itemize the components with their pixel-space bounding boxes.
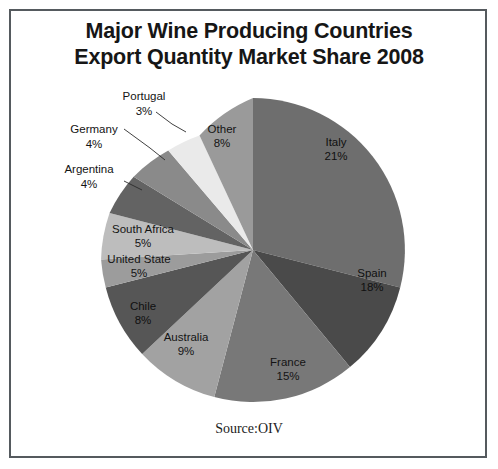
slice-label-australia-pct: 9% xyxy=(178,345,195,357)
slice-label-united-state-pct: 5% xyxy=(131,267,148,279)
slice-label-france-pct: 15% xyxy=(276,370,299,382)
pie-chart-figure: Major Wine Producing Countries Export Qu… xyxy=(0,0,498,469)
slice-label-chile-name: Chile xyxy=(130,300,156,312)
leader-line-germany xyxy=(124,129,165,160)
slice-label-australia-name: Australia xyxy=(164,331,209,343)
slice-label-spain-pct: 18% xyxy=(360,281,383,293)
slice-label-portugal-pct: 3% xyxy=(136,105,153,117)
slice-label-argentina-pct: 4% xyxy=(81,178,98,190)
pie-chart-canvas: Italy 21% Spain 18% France 15% Australia… xyxy=(0,0,498,469)
slice-label-other-pct: 8% xyxy=(214,137,231,149)
slice-label-other-name: Other xyxy=(208,123,237,135)
slice-label-italy-name: Italy xyxy=(325,136,346,148)
slice-label-south-africa-name: South Africa xyxy=(112,223,175,235)
slice-label-portugal-name: Portugal xyxy=(123,90,166,102)
slice-label-germany-name: Germany xyxy=(70,123,118,135)
slice-label-argentina-name: Argentina xyxy=(64,163,114,175)
slice-label-france-name: France xyxy=(270,356,306,368)
slice-label-italy-pct: 21% xyxy=(324,150,347,162)
slice-label-south-africa-pct: 5% xyxy=(135,237,152,249)
slice-label-spain-name: Spain xyxy=(357,267,386,279)
slice-label-chile-pct: 8% xyxy=(135,314,152,326)
pie-slices xyxy=(101,98,405,402)
slice-label-germany-pct: 4% xyxy=(86,138,103,150)
source-note: Source:OIV xyxy=(0,421,498,437)
slice-label-united-state-name: United State xyxy=(107,253,170,265)
leader-line-portugal xyxy=(156,112,186,132)
